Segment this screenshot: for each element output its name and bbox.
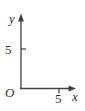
x-axis-label: x <box>72 90 78 103</box>
y-axis-tick-label-5: 5 <box>5 43 12 56</box>
origin-label: O <box>5 86 14 99</box>
y-axis-arrow-icon <box>18 14 24 22</box>
x-axis-tick-label-5: 5 <box>55 92 62 105</box>
y-axis-label: y <box>9 12 15 25</box>
coordinate-axes-figure: y x O 5 5 <box>0 0 85 111</box>
